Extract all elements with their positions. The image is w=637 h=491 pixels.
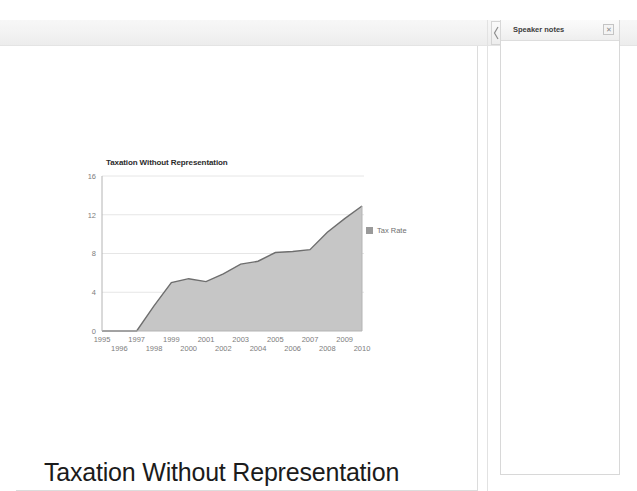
x-tick-label-2006: 2006 [284, 344, 301, 353]
x-tick-label-2008: 2008 [319, 344, 336, 353]
speaker-notes-panel[interactable]: Speaker notes ✕ [500, 20, 620, 475]
x-tick-label-1998: 1998 [146, 344, 163, 353]
x-tick-label-2007: 2007 [302, 335, 319, 344]
area-chart: 0481216199519961997199819992000200120022… [88, 158, 458, 380]
x-tick-label-1999: 1999 [163, 335, 180, 344]
x-tick-label-2000: 2000 [180, 344, 197, 353]
x-tick-label-1996: 1996 [111, 344, 128, 353]
x-tick-label-1995: 1995 [94, 335, 111, 344]
legend-swatch-tax-rate [366, 227, 373, 234]
x-tick-label-1997: 1997 [128, 335, 145, 344]
speaker-notes-header: Speaker notes ✕ [501, 20, 619, 41]
x-tick-label-2003: 2003 [232, 335, 249, 344]
x-tick-label-2009: 2009 [336, 335, 353, 344]
y-tick-label-8: 8 [92, 249, 96, 258]
speaker-notes-title: Speaker notes [513, 25, 564, 34]
x-tick-label-2001: 2001 [198, 335, 215, 344]
chart-legend: Tax Rate [366, 226, 407, 235]
y-tick-label-16: 16 [88, 172, 96, 181]
speaker-notes-textarea[interactable] [501, 41, 619, 474]
y-tick-label-4: 4 [92, 288, 96, 297]
slide-title-text[interactable]: Taxation Without Representation [44, 458, 399, 487]
pane-divider [487, 20, 488, 491]
y-tick-label-12: 12 [88, 211, 96, 220]
x-tick-label-2010: 2010 [354, 344, 371, 353]
chart-object[interactable]: Taxation Without Representation 04812161… [88, 158, 458, 380]
close-icon[interactable]: ✕ [603, 24, 614, 35]
slide-canvas[interactable]: Taxation Without Representation 04812161… [16, 46, 478, 491]
x-tick-label-2005: 2005 [267, 335, 284, 344]
legend-label-tax-rate: Tax Rate [377, 226, 407, 235]
x-tick-label-2002: 2002 [215, 344, 232, 353]
x-tick-label-2004: 2004 [250, 344, 267, 353]
